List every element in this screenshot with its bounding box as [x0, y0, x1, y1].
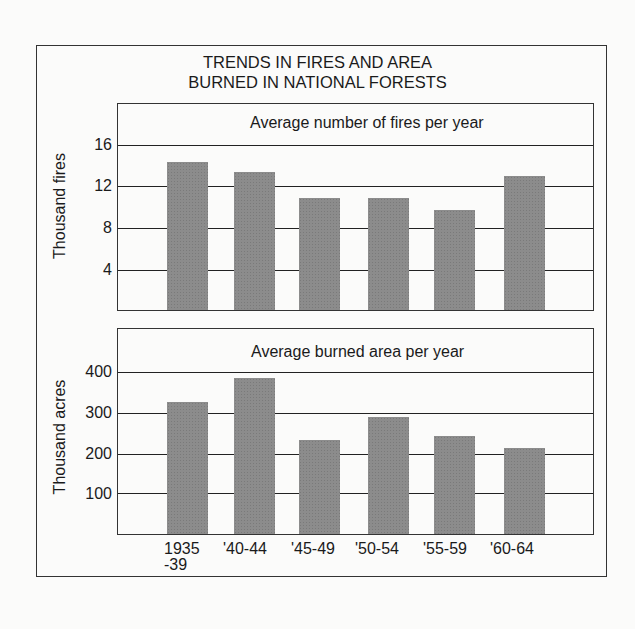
bar-acres-50-54: [368, 417, 409, 534]
bottom-panel-subtitle: Average burned area per year: [251, 343, 464, 361]
bar-acres-40-44: [234, 378, 275, 534]
x-label-1935-39: 1935 -39: [164, 541, 200, 573]
bar-fires-1935-39: [167, 162, 208, 310]
bottom-y-axis-label: Thousand acres: [51, 374, 69, 500]
bar-acres-55-59: [434, 436, 475, 534]
chart-title: TRENDS IN FIRES AND AREA BURNED IN NATIO…: [0, 52, 635, 92]
bar-acres-45-49: [299, 440, 340, 534]
bar-fires-45-49: [299, 198, 340, 310]
bar-acres-1935-39: [167, 402, 208, 534]
bar-fires-40-44: [234, 172, 275, 310]
bar-fires-50-54: [368, 198, 409, 310]
top-y-axis-label: Thousand fires: [51, 151, 69, 261]
gridline-400: [118, 372, 593, 373]
top-y-tick: 12: [72, 177, 112, 195]
bottom-plot-area: Average burned area per year: [117, 328, 594, 535]
bottom-y-tick: 200: [72, 445, 112, 463]
x-label-50-54: '50-54: [355, 541, 399, 557]
bottom-y-tick: 300: [72, 404, 112, 422]
bar-fires-60-64: [504, 176, 545, 310]
bottom-y-tick: 400: [72, 363, 112, 381]
top-panel-subtitle: Average number of fires per year: [250, 114, 484, 132]
gridline-16: [118, 145, 593, 146]
x-label-45-49: '45-49: [291, 541, 335, 557]
top-plot-area: Average number of fires per year: [117, 103, 594, 311]
top-y-tick: 4: [72, 261, 112, 279]
chart-title-line2: BURNED IN NATIONAL FORESTS: [0, 72, 635, 92]
x-label-60-64: '60-64: [490, 541, 534, 557]
bar-fires-55-59: [434, 210, 475, 310]
x-label-line1: 1935: [164, 541, 200, 557]
x-label-40-44: '40-44: [223, 541, 267, 557]
x-label-55-59: '55-59: [423, 541, 467, 557]
bar-acres-60-64: [504, 448, 545, 534]
chart-title-line1: TRENDS IN FIRES AND AREA: [0, 52, 635, 72]
top-y-tick: 16: [72, 136, 112, 154]
x-label-line2: -39: [164, 557, 200, 573]
top-y-tick: 8: [72, 219, 112, 237]
bottom-y-tick: 100: [72, 485, 112, 503]
